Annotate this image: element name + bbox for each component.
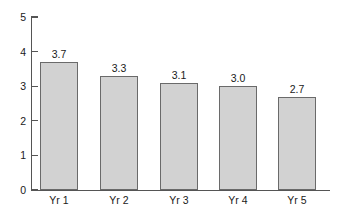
- bar: [278, 97, 316, 190]
- y-tick-mark: [32, 189, 38, 190]
- bar-value-label: 3.0: [219, 73, 257, 84]
- bar-value-label: 3.1: [160, 70, 198, 81]
- y-tick-mark: [32, 16, 38, 17]
- y-tick-label: 2: [20, 116, 26, 127]
- x-tick-label: Yr 5: [270, 195, 324, 206]
- y-tick: 1: [32, 155, 38, 156]
- bar-value-label: 2.7: [278, 84, 316, 95]
- y-tick: 5: [32, 16, 38, 17]
- x-tick-label: Yr 1: [32, 195, 86, 206]
- y-tick-mark: [32, 86, 38, 87]
- y-tick-label: 1: [20, 150, 26, 161]
- bar: [219, 86, 257, 190]
- x-axis-line: [31, 190, 330, 191]
- y-tick-mark: [32, 155, 38, 156]
- y-tick-label: 4: [20, 46, 26, 57]
- y-tick-label: 3: [20, 81, 26, 92]
- x-tick-label: Yr 3: [152, 195, 206, 206]
- y-tick: 2: [32, 120, 38, 121]
- y-tick-label: 0: [20, 185, 26, 196]
- bar-value-label: 3.3: [100, 63, 138, 74]
- bar-chart: 012345 3.73.33.13.02.7 Yr 1Yr 2Yr 3Yr 4Y…: [0, 0, 337, 214]
- y-tick: 0: [32, 189, 38, 190]
- y-tick-mark: [32, 51, 38, 52]
- bar: [40, 62, 78, 190]
- y-tick-label: 5: [20, 12, 26, 23]
- y-axis-line: [31, 16, 32, 191]
- y-tick: 4: [32, 51, 38, 52]
- bar-value-label: 3.7: [40, 49, 78, 60]
- x-tick-label: Yr 4: [211, 195, 265, 206]
- bar: [100, 76, 138, 190]
- y-tick-mark: [32, 120, 38, 121]
- bar: [160, 83, 198, 190]
- y-tick: 3: [32, 86, 38, 87]
- x-tick-label: Yr 2: [92, 195, 146, 206]
